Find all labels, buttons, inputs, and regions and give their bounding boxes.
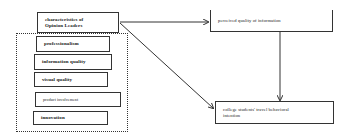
edges [0, 0, 350, 137]
edge-leaders-to-intention [120, 23, 213, 108]
